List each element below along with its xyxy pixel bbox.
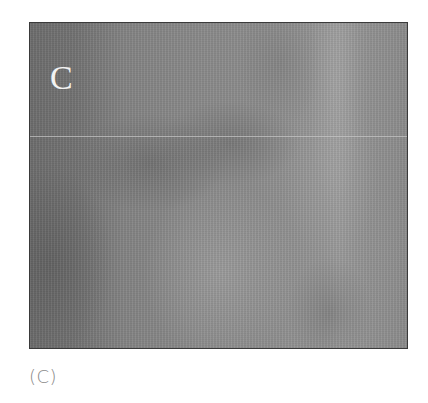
panel-label: C: [50, 61, 73, 95]
scan-noise-texture: [30, 23, 407, 348]
figure-caption: (C): [29, 366, 57, 387]
figure-image: C: [29, 22, 408, 349]
horizontal-scan-line: [30, 136, 407, 137]
